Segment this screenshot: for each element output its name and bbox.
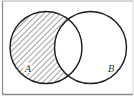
set-b-label: B: [107, 64, 115, 74]
set-a-label: A: [24, 64, 32, 74]
venn-diagram: A B: [0, 0, 134, 99]
shaded-region-a-minus-b: [0, 0, 134, 99]
